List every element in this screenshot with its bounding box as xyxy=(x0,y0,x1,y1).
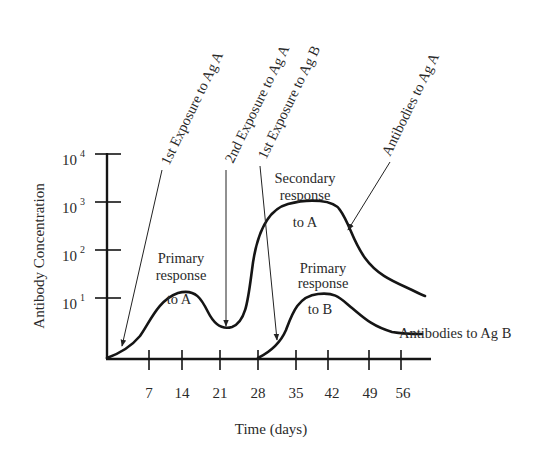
x-tick-label: 21 xyxy=(213,385,228,401)
arrow-first-exposure-ag-b xyxy=(260,166,277,340)
svg-text:to B: to B xyxy=(308,301,333,317)
label-first-exposure-ag-a: 1st Exposure to Ag A xyxy=(157,48,226,167)
svg-text:response: response xyxy=(280,187,331,203)
y-tick-labels: 104 103 102 101 xyxy=(62,148,85,312)
y-tick-label: 101 xyxy=(62,292,85,312)
x-axis-title: Time (days) xyxy=(235,421,307,438)
y-axis-title: Antibody Concentration xyxy=(31,183,47,329)
antibody-response-chart: Antibody Concentration 104 103 102 101 7… xyxy=(0,0,547,454)
svg-text:to A: to A xyxy=(167,291,192,307)
curve-antibodies-ag-b xyxy=(258,294,422,358)
label-primary-response-b: Primary response to B xyxy=(298,260,349,317)
x-tick-label: 35 xyxy=(289,385,304,401)
svg-text:Secondary: Secondary xyxy=(274,170,336,186)
svg-text:response: response xyxy=(298,275,349,291)
label-secondary-response-a: Secondary response to A xyxy=(274,170,336,230)
y-tick-label: 103 xyxy=(62,196,85,216)
svg-text:Primary: Primary xyxy=(300,260,347,276)
label-antibodies-ag-b: Antibodies to Ag B xyxy=(399,325,511,341)
y-tick-label: 102 xyxy=(62,244,85,264)
svg-text:Primary: Primary xyxy=(158,250,205,266)
x-tick-label: 7 xyxy=(145,385,153,401)
arrow-first-exposure-ag-a xyxy=(122,170,162,346)
label-antibodies-ag-a: Antibodies to Ag A xyxy=(378,50,442,158)
x-tick-label: 56 xyxy=(396,385,412,401)
svg-text:response: response xyxy=(156,267,207,283)
svg-text:to A: to A xyxy=(293,214,318,230)
x-tick-label: 28 xyxy=(251,385,266,401)
y-tick-label: 104 xyxy=(62,148,85,168)
arrow-antibodies-ag-a xyxy=(348,162,390,230)
x-tick-labels: 7 14 21 28 35 42 49 56 xyxy=(145,385,411,401)
x-tick-label: 14 xyxy=(175,385,191,401)
x-tick-label: 49 xyxy=(363,385,378,401)
x-tick-label: 42 xyxy=(325,385,340,401)
